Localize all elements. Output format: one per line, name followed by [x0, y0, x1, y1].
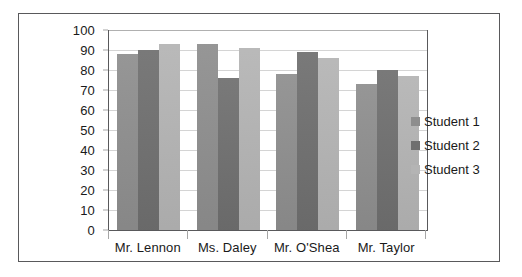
legend-swatch-icon-student-2 [411, 141, 420, 150]
bar-mr-taylor-student-1[interactable] [356, 84, 377, 230]
y-axis: 100 90 80 70 60 50 40 30 20 10 0 [59, 30, 103, 230]
bar-ms-daley-student-2[interactable] [218, 78, 239, 230]
category-separator-0 [108, 230, 109, 239]
legend-label-student-3: Student 3 [424, 162, 480, 177]
bar-mr-oshea-student-1[interactable] [276, 74, 297, 230]
category-separators [108, 230, 426, 239]
category-separator-1 [187, 230, 188, 239]
bar-group-ms-daley [189, 30, 269, 230]
bar-group-mr-lennon [109, 30, 189, 230]
plot-area [108, 30, 428, 231]
category-separator-4 [425, 230, 426, 239]
y-tick-label-10: 10 [80, 203, 95, 218]
y-tick-label-30: 30 [80, 163, 95, 178]
y-tick-label-50: 50 [80, 123, 95, 138]
x-axis: Mr. Lennon Ms. Daley Mr. O'Shea Mr. Tayl… [108, 240, 426, 255]
legend-swatch-icon-student-3 [411, 165, 420, 174]
bars-layer [109, 30, 427, 230]
y-tick-label-0: 0 [88, 223, 95, 238]
legend-item-student-1[interactable]: Student 1 [411, 109, 495, 133]
legend-swatch-icon-student-1 [411, 117, 420, 126]
plot-wrapper: 100 90 80 70 60 50 40 30 20 10 0 [59, 30, 449, 250]
y-tick-label-100: 100 [73, 23, 95, 38]
chart-frame: 100 90 80 70 60 50 40 30 20 10 0 [18, 13, 500, 262]
y-tick-label-70: 70 [80, 83, 95, 98]
bar-mr-lennon-student-2[interactable] [138, 50, 159, 230]
bar-mr-lennon-student-1[interactable] [117, 54, 138, 230]
x-tick-label-ms-daley: Ms. Daley [188, 240, 268, 255]
y-tick-label-80: 80 [80, 63, 95, 78]
y-tick-label-60: 60 [80, 103, 95, 118]
bar-mr-oshea-student-2[interactable] [297, 52, 318, 230]
legend-label-student-2: Student 2 [424, 138, 480, 153]
bar-ms-daley-student-1[interactable] [197, 44, 218, 230]
y-tick-label-90: 90 [80, 43, 95, 58]
x-tick-label-mr-lennon: Mr. Lennon [108, 240, 188, 255]
category-separator-2 [267, 230, 268, 239]
category-separator-3 [346, 230, 347, 239]
bar-group-mr-oshea [268, 30, 348, 230]
legend-item-student-2[interactable]: Student 2 [411, 133, 495, 157]
y-tick-label-40: 40 [80, 143, 95, 158]
bar-mr-taylor-student-2[interactable] [377, 70, 398, 230]
bar-ms-daley-student-3[interactable] [239, 48, 260, 230]
legend-item-student-3[interactable]: Student 3 [411, 157, 495, 181]
x-tick-label-mr-taylor: Mr. Taylor [347, 240, 427, 255]
bar-mr-oshea-student-3[interactable] [318, 58, 339, 230]
legend: Student 1 Student 2 Student 3 [411, 109, 495, 181]
legend-label-student-1: Student 1 [424, 114, 480, 129]
bar-mr-lennon-student-3[interactable] [159, 44, 180, 230]
x-tick-label-mr-oshea: Mr. O'Shea [267, 240, 347, 255]
y-tick-label-20: 20 [80, 183, 95, 198]
